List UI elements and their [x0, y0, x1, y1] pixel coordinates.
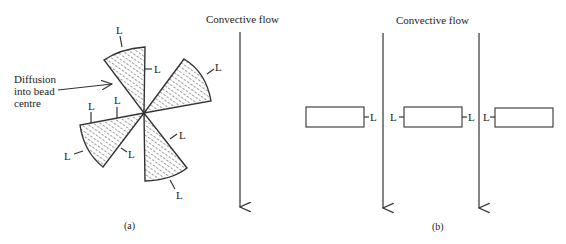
bead-sector-top — [104, 47, 145, 113]
bead-sectors — [80, 47, 211, 181]
length-label: L — [154, 63, 161, 75]
bead-sector-bottom — [144, 113, 187, 181]
panel-a-caption: (a) — [124, 220, 135, 232]
length-label: L — [114, 94, 121, 106]
diffusion-label-line-2: into bead — [14, 85, 55, 97]
convective-flow-label-b: Convective flow — [396, 14, 469, 26]
length-label: L — [116, 24, 123, 36]
panel-b: Convective flow L L L L (b) — [306, 14, 553, 233]
length-label: L — [390, 111, 397, 123]
slab-1 — [306, 107, 364, 127]
length-label: L — [468, 111, 475, 123]
length-label: L — [128, 148, 135, 160]
slab-3 — [495, 108, 553, 127]
length-label: L — [176, 189, 183, 201]
length-label: L — [64, 150, 71, 162]
diffusion-label-line-1: Diffusion — [14, 73, 56, 85]
length-label: L — [370, 111, 377, 123]
length-label: L — [215, 61, 222, 73]
length-label: L — [179, 129, 186, 141]
convective-flow-label-a: Convective flow — [206, 13, 279, 25]
length-label: L — [483, 111, 490, 123]
diffusion-label-line-3: centre — [14, 97, 41, 109]
figure: L L L L L L L L L Diffusion into bead ce… — [0, 0, 566, 244]
panel-b-caption: (b) — [432, 221, 444, 233]
length-label: L — [88, 100, 95, 112]
slab-2 — [404, 107, 462, 127]
diffusion-arrow-icon — [58, 84, 112, 90]
diffusion-annotation: Diffusion into bead centre — [14, 73, 112, 109]
panel-a: L L L L L L L L L Diffusion into bead ce… — [14, 13, 279, 232]
